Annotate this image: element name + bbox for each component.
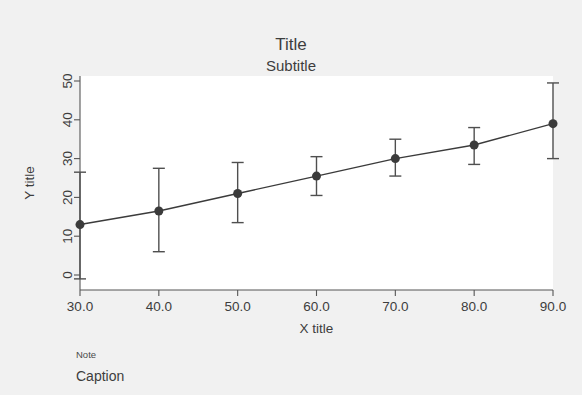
data-point-60[interactable] xyxy=(312,172,321,181)
x-tick-label-60.0: 60.0 xyxy=(303,299,329,314)
data-point-50[interactable] xyxy=(233,189,242,198)
x-tick-label-80.0: 80.0 xyxy=(461,299,487,314)
y-tick-label-50: 50 xyxy=(60,73,75,88)
y-tick-label-10: 10 xyxy=(60,229,75,244)
data-point-70[interactable] xyxy=(391,154,400,163)
x-tick-label-70.0: 70.0 xyxy=(382,299,408,314)
data-point-80[interactable] xyxy=(470,141,479,150)
y-tick-label-30: 30 xyxy=(60,151,75,166)
chart-canvas: TitleSubtitle0102030405030.040.050.060.0… xyxy=(0,0,582,395)
chart-figure: TitleSubtitle0102030405030.040.050.060.0… xyxy=(0,0,582,395)
x-axis-title: X title xyxy=(300,321,334,336)
data-point-30[interactable] xyxy=(76,220,85,229)
x-tick-label-30.0: 30.0 xyxy=(67,299,93,314)
chart-title: Title xyxy=(275,35,307,54)
x-tick-label-40.0: 40.0 xyxy=(146,299,172,314)
data-point-90[interactable] xyxy=(549,119,558,128)
y-tick-label-40: 40 xyxy=(60,112,75,127)
data-point-40[interactable] xyxy=(154,206,163,215)
chart-subtitle: Subtitle xyxy=(266,57,316,74)
caption-label: Caption xyxy=(76,368,124,384)
x-tick-label-50.0: 50.0 xyxy=(225,299,251,314)
x-tick-label-90.0: 90.0 xyxy=(540,299,566,314)
note-label: Note xyxy=(76,349,96,360)
y-tick-label-0: 0 xyxy=(60,271,75,279)
y-tick-label-20: 20 xyxy=(60,190,75,205)
y-axis-title: Y title xyxy=(22,166,37,200)
